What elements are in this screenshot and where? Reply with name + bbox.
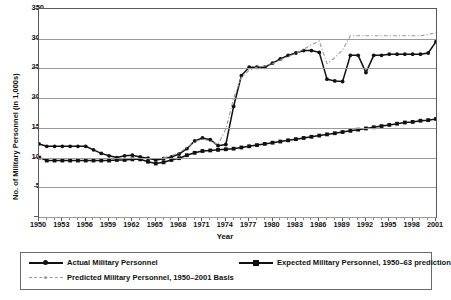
data-point [271,141,275,145]
data-point [325,132,329,136]
data-point [92,148,96,152]
gridline [39,39,436,40]
data-point [76,159,80,163]
data-point [395,122,399,126]
chart-area: No. of Military Personnel (in 1,000s) 05… [0,0,450,250]
gridline [39,128,436,129]
x-axis-minor-tick [92,218,93,220]
data-point [395,52,399,56]
data-point [286,53,290,57]
data-point [317,50,321,54]
x-axis-minor-tick [69,218,70,220]
data-point [294,137,298,141]
data-point [302,49,306,53]
data-point [411,120,415,124]
data-point [208,149,212,153]
data-point [99,159,103,163]
data-point [317,134,321,138]
data-point [53,144,57,148]
data-point [45,144,49,148]
legend-label: Expected Military Personnel, 1950–63 pre… [277,258,451,267]
data-point [325,77,329,81]
x-axis-minor-tick [303,218,304,220]
x-axis-minor-tick [163,218,164,220]
x-axis-minor-tick [46,218,47,220]
data-point [341,80,345,84]
series-line [39,42,436,160]
data-point [68,159,72,163]
x-axis-minor-tick [116,218,117,220]
data-point [255,143,259,147]
data-point [387,52,391,56]
gridline [39,217,436,218]
data-point [333,131,337,135]
x-axis-minor-tick [139,218,140,220]
data-point [310,49,314,53]
legend-item[interactable]: Actual Military Personnel [29,258,158,267]
x-axis-minor-tick [186,218,187,220]
data-point [162,160,166,164]
data-point [263,142,267,146]
x-axis-minor-tick [396,218,397,220]
data-point [372,53,376,57]
legend-square-marker [253,260,259,266]
x-axis-minor-tick [373,218,374,220]
x-axis-tick-label: 2001 [420,221,450,229]
data-point [247,144,251,148]
data-point [201,149,205,153]
data-point [216,148,220,152]
data-point [185,153,189,157]
data-point [224,143,228,147]
data-point [76,144,80,148]
gridline [39,68,436,69]
data-point [92,159,96,163]
data-point [39,142,41,146]
data-point [356,53,360,57]
data-point [426,51,430,55]
legend-circle-marker [43,260,48,265]
series-1 [39,40,436,162]
data-point [131,153,135,157]
data-point [146,160,150,164]
data-point [224,147,228,151]
data-point [60,159,64,163]
gridline [39,158,436,159]
data-point [348,53,352,57]
legend-item[interactable]: Predicted Military Personnel, 1950–2001 … [29,273,234,282]
data-point [333,79,337,83]
x-axis-minor-tick [419,218,420,220]
gridline [39,98,436,99]
legend-dot-marker [44,276,47,279]
square-solid-line-icon [239,258,273,267]
legend-item[interactable]: Expected Military Personnel, 1950–63 pre… [239,258,451,267]
data-point [99,152,103,156]
x-axis-minor-tick [209,218,210,220]
data-point [193,151,197,155]
series-layer [39,9,436,217]
data-point [278,140,282,144]
data-point [60,144,64,148]
x-axis-minor-tick [256,218,257,220]
data-point [380,53,384,57]
data-point [107,159,111,163]
data-point [348,129,352,133]
data-point [403,52,407,56]
plot-area [38,8,437,218]
circle-solid-line-icon [29,258,63,267]
data-point [68,144,72,148]
x-axis-title: Year [0,232,450,241]
data-point [232,147,236,151]
chart-legend: Actual Military PersonnelExpected Milita… [20,252,432,290]
legend-label: Actual Military Personnel [67,258,158,267]
data-point [387,123,391,127]
data-point [426,118,430,122]
x-axis-minor-tick [349,218,350,220]
data-point [341,130,345,134]
data-point [185,147,189,151]
data-point [419,119,423,123]
x-axis-minor-tick [233,218,234,220]
data-point [53,159,57,163]
data-point [123,158,127,162]
dash-dot-line-icon [29,273,63,282]
data-point [169,158,173,162]
